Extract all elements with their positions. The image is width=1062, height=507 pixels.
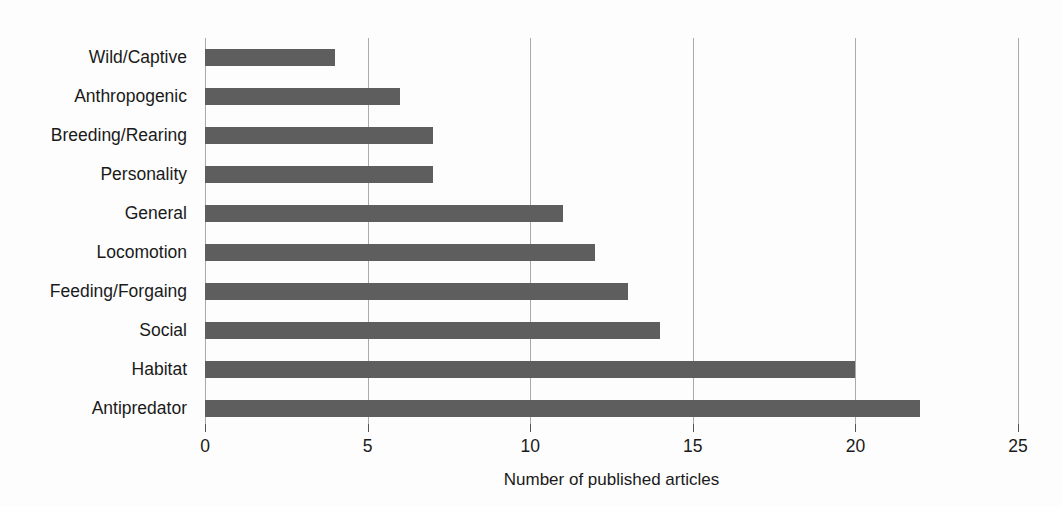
x-axis-tick-label: 10 xyxy=(520,436,539,457)
bar xyxy=(205,88,400,105)
gridline xyxy=(1018,38,1019,424)
x-axis-title: Number of published articles xyxy=(205,470,1018,490)
bar xyxy=(205,205,563,222)
x-axis-tick-label: 0 xyxy=(200,436,210,457)
x-axis-tick xyxy=(1018,424,1019,432)
bar-row xyxy=(205,233,1018,272)
bar xyxy=(205,244,595,261)
bar xyxy=(205,283,628,300)
bar xyxy=(205,361,855,378)
x-axis-tick-label: 25 xyxy=(1008,436,1027,457)
bar-row xyxy=(205,272,1018,311)
category-label: Social xyxy=(0,311,196,350)
bar-row xyxy=(205,38,1018,77)
category-label: Feeding/Forgaing xyxy=(0,272,196,311)
bar-chart-figure: Wild/CaptiveAnthropogenicBreeding/Rearin… xyxy=(0,0,1062,507)
x-axis-tick-label: 20 xyxy=(846,436,865,457)
x-axis-tick-label: 5 xyxy=(363,436,373,457)
category-label: Wild/Captive xyxy=(0,38,196,77)
x-axis-tick-label: 15 xyxy=(683,436,702,457)
bar xyxy=(205,49,335,66)
bar-row xyxy=(205,77,1018,116)
bar-row xyxy=(205,155,1018,194)
category-label: General xyxy=(0,194,196,233)
x-axis-tick-labels: 0510152025 xyxy=(205,436,1018,462)
bar-row xyxy=(205,194,1018,233)
category-label: Anthropogenic xyxy=(0,77,196,116)
category-label: Breeding/Rearing xyxy=(0,116,196,155)
bar-row xyxy=(205,311,1018,350)
bar-row xyxy=(205,116,1018,155)
bar-row xyxy=(205,350,1018,389)
bar-series xyxy=(205,38,1018,424)
bar xyxy=(205,322,660,339)
bar-row xyxy=(205,389,1018,428)
category-label: Antipredator xyxy=(0,389,196,428)
bar xyxy=(205,127,433,144)
category-label: Locomotion xyxy=(0,233,196,272)
bar xyxy=(205,400,920,417)
category-label: Personality xyxy=(0,155,196,194)
category-label: Habitat xyxy=(0,350,196,389)
bar xyxy=(205,166,433,183)
category-axis-labels: Wild/CaptiveAnthropogenicBreeding/Rearin… xyxy=(0,38,196,424)
